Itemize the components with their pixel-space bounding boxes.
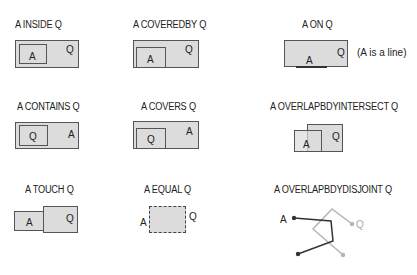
endpoint-a [296,252,300,256]
line-geometry-layer [0,0,417,275]
endpoint-q [350,222,354,226]
endpoint-q [341,253,345,257]
line-a-disjoint [294,218,333,254]
endpoint-a [292,216,296,220]
